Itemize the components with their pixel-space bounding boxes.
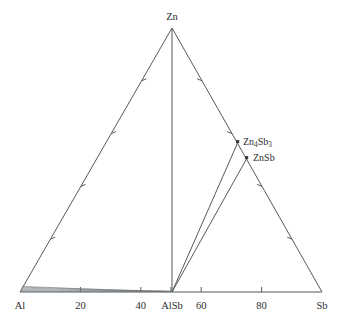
marker-zn4sb3 (236, 140, 239, 143)
compound-label-znsb: ZnSb (253, 152, 275, 163)
al-corner-fan-region (21, 286, 172, 291)
edge-al-zn (20, 28, 172, 292)
tick-label-bottom-alsb: AlSb (161, 300, 183, 311)
vertex-label-al: Al (15, 300, 26, 311)
tick-label-bottom-20: 20 (75, 300, 86, 311)
tick-label-bottom-60: 60 (196, 300, 207, 311)
zn4sb3-part-sb: Sb (258, 136, 269, 147)
vertex-label-zn: Zn (166, 11, 178, 22)
tick-label-bottom-40: 40 (136, 300, 147, 311)
zn4sb3-part-zn: Zn (243, 136, 254, 147)
tie-lines (172, 28, 247, 292)
ternary-diagram-canvas: Zn Al Sb 20 40 AlSb 60 80 Zn4Sb3 ZnSb (0, 0, 343, 335)
zn4sb3-part-3: 3 (268, 141, 272, 149)
tie-line-alsb-znsb (172, 158, 247, 292)
tick-label-bottom-80: 80 (256, 300, 267, 311)
vertex-label-sb: Sb (316, 300, 327, 311)
triangle-edges (20, 28, 322, 292)
marker-znsb (245, 156, 248, 159)
tie-line-alsb-zn4sb3 (172, 142, 238, 292)
compound-label-zn4sb3: Zn4Sb3 (243, 136, 272, 149)
ternary-phase-diagram-figure: Zn Al Sb 20 40 AlSb 60 80 Zn4Sb3 ZnSb (0, 0, 343, 335)
